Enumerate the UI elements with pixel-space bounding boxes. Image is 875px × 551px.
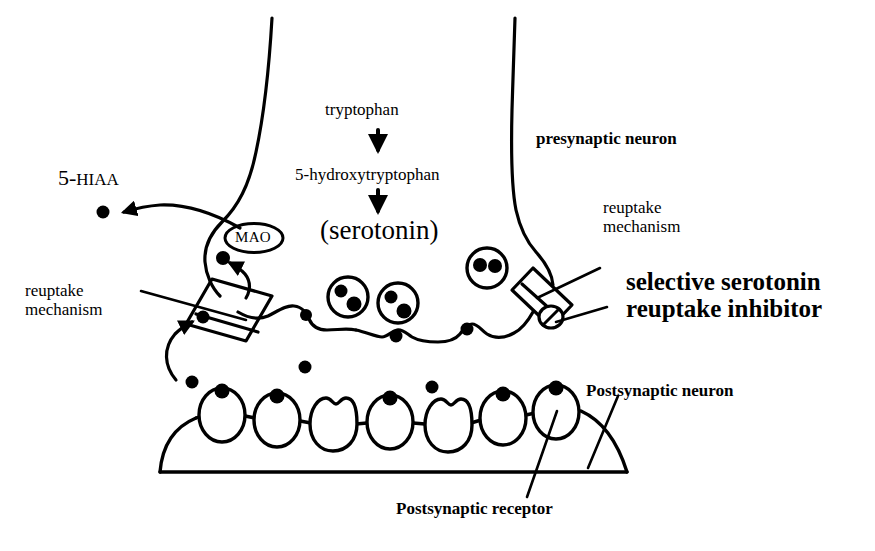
label-serotonin: (serotonin) — [320, 215, 438, 245]
label-reuptake-mechanism-left: reuptake mechanism — [25, 281, 102, 319]
vesicle — [378, 283, 418, 323]
diagram-canvas: tryptophan 5-hydroxytryptophan (serotoni… — [0, 0, 875, 551]
postsynaptic-right-arc — [581, 411, 627, 472]
label-presynaptic-neuron: presynaptic neuron — [536, 129, 677, 148]
label-5-hiaa: 5-HIAA — [58, 166, 119, 191]
hiaa-metabolite-dot — [97, 206, 110, 219]
leader-line-reuptake-right — [537, 268, 600, 298]
label-reuptake-mechanism-right: reuptake mechanism — [603, 198, 680, 236]
vesicle — [328, 277, 368, 317]
label-mao: MAO — [235, 229, 271, 246]
vesicle-group — [328, 248, 507, 323]
label-5-hydroxytryptophan: 5-hydroxytryptophan — [295, 165, 439, 184]
ssri-molecule-icon — [539, 306, 563, 328]
label-ssri: selective serotonin reuptake inhibitor — [626, 268, 822, 322]
label-5-hiaa-suffix: HIAA — [76, 170, 119, 189]
label-postsynaptic-neuron: Postsynaptic neuron — [586, 381, 734, 400]
postsynaptic-receptor — [310, 398, 357, 451]
uptake-arrow-left — [166, 322, 192, 380]
hiaa-efflux-arrow — [124, 205, 240, 228]
serotonin-granule-in-left-transporter — [197, 311, 210, 324]
serotonin-granule-at-mao — [216, 251, 230, 265]
mao-degradation-arrow — [230, 263, 249, 298]
label-5-hiaa-prefix: 5- — [58, 165, 76, 190]
presynaptic-right-wall — [512, 18, 553, 285]
left-reuptake-transporter — [186, 279, 272, 341]
postsynaptic-receptor-row — [196, 381, 579, 453]
label-postsynaptic-receptor: Postsynaptic receptor — [396, 499, 553, 518]
postsynaptic-left-arc — [160, 418, 196, 472]
postsynaptic-receptor — [425, 399, 472, 452]
leader-line-reuptake-left — [141, 291, 246, 320]
presynaptic-left-wall — [205, 18, 272, 296]
leader-line-postsynaptic-neuron — [588, 396, 618, 468]
label-tryptophan: tryptophan — [325, 100, 399, 119]
